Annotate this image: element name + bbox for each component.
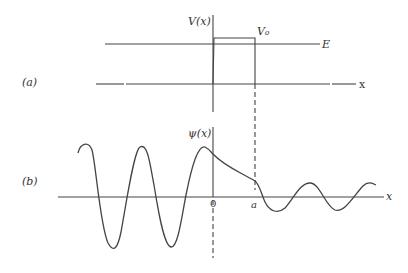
barrier — [213, 38, 255, 84]
panel-b-label: (b) — [22, 175, 38, 188]
tick-a-label: a — [251, 199, 257, 210]
psi-axis-label: ψ(x) — [188, 127, 211, 140]
v-axis-label: V(x) — [188, 15, 211, 28]
x-label-b: x — [386, 190, 393, 203]
tick-0-label: 0 — [210, 198, 216, 209]
tunneling-diagram: (a) V(x) V₀ E x (b) ψ(x) 0 a x — [0, 0, 408, 273]
v0-label: V₀ — [257, 25, 270, 38]
panel-a-label: (a) — [22, 76, 37, 89]
energy-label: E — [321, 38, 330, 51]
panel-b — [58, 127, 384, 258]
wavefunction-curve — [78, 144, 376, 248]
x-label-a: x — [359, 78, 366, 91]
